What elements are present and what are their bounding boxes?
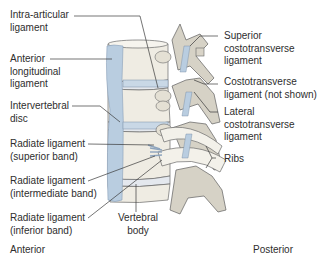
- label-line: Radiate ligament: [10, 175, 97, 188]
- label-line: disc: [10, 113, 69, 126]
- label-anterior-longitudinal-ligament: Anterior longitudinal ligament: [10, 53, 61, 91]
- label-line: longitudinal: [10, 66, 61, 79]
- orientation-posterior: Posterior: [253, 244, 293, 257]
- label-line: ligament: [10, 22, 69, 35]
- label-ribs: Ribs: [224, 153, 244, 166]
- label-line: Radiate ligament: [10, 212, 85, 225]
- label-line: (intermediate band): [10, 188, 97, 201]
- label-line: costotransverse: [224, 119, 295, 132]
- label-line: Radiate ligament: [10, 138, 85, 151]
- label-line: Costotransverse: [224, 76, 317, 89]
- label-radiate-ligament-intermediate: Radiate ligament (intermediate band): [10, 175, 97, 200]
- label-line: Ribs: [224, 153, 244, 166]
- label-line: (inferior band): [10, 225, 85, 238]
- label-vertebral-body: Vertebral body: [116, 212, 160, 237]
- label-line: ligament: [224, 131, 295, 144]
- label-line: costotransverse: [224, 43, 295, 56]
- label-superior-costotransverse-ligament: Superior costotransverse ligament: [224, 30, 295, 68]
- orientation-anterior: Anterior: [10, 244, 45, 257]
- label-line: Lateral: [224, 106, 295, 119]
- label-lateral-costotransverse-ligament: Lateral costotransverse ligament: [224, 106, 295, 144]
- label-line: body: [116, 225, 160, 238]
- label-radiate-ligament-superior: Radiate ligament (superior band): [10, 138, 85, 163]
- label-line: Superior: [224, 30, 295, 43]
- label-line: Anterior: [10, 53, 61, 66]
- label-line: (superior band): [10, 151, 85, 164]
- label-line: Vertebral: [116, 212, 160, 225]
- label-line: ligament: [224, 55, 295, 68]
- label-line: Intra-articular: [10, 9, 69, 22]
- anterior-longitudinal-ligament-shape: [106, 45, 123, 202]
- label-line: ligament: [10, 78, 61, 91]
- label-line: ligament (not shown): [224, 89, 317, 102]
- label-costotransverse-ligament: Costotransverse ligament (not shown): [224, 76, 317, 101]
- label-intervertebral-disc: Intervertebral disc: [10, 100, 69, 125]
- label-radiate-ligament-inferior: Radiate ligament (inferior band): [10, 212, 85, 237]
- label-line: Intervertebral: [10, 100, 69, 113]
- label-intra-articular-ligament: Intra-articular ligament: [10, 9, 69, 34]
